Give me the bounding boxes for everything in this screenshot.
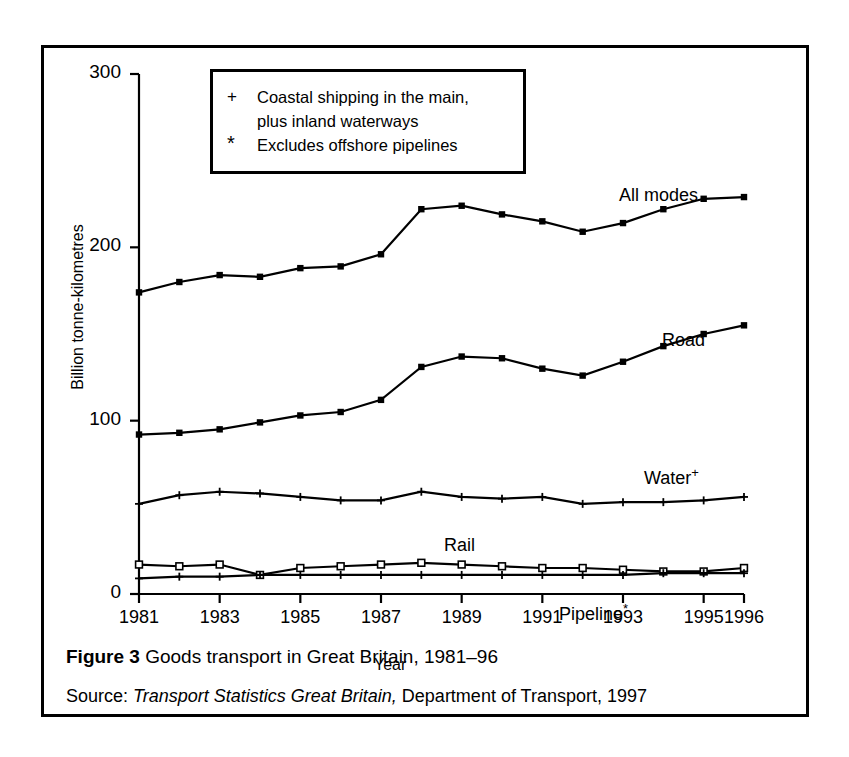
legend-note-box: + Coastal shipping in the main, plus inl… (210, 69, 526, 174)
data-point-marker (700, 196, 706, 202)
data-point-marker (216, 272, 222, 278)
data-point-marker (135, 500, 143, 508)
data-point-marker (378, 251, 384, 257)
series-line (139, 492, 744, 504)
source-prefix: Source: (66, 686, 128, 706)
x-tick-label: 1987 (351, 607, 411, 628)
data-point-marker (136, 289, 142, 295)
legend-note-pipeline-line1: Excludes offshore pipelines (257, 133, 513, 157)
data-point-marker (700, 496, 708, 504)
x-axis-ticks (139, 594, 744, 603)
x-tick-label: 1996 (714, 607, 774, 628)
series-label-superscript: + (691, 465, 699, 480)
data-point-marker (620, 359, 626, 365)
data-point-marker (458, 493, 466, 501)
x-tick-label: 1981 (109, 607, 169, 628)
data-point-marker (741, 322, 747, 328)
data-point-marker (337, 496, 345, 504)
data-point-marker (418, 559, 425, 566)
series-line (139, 573, 744, 578)
data-point-marker (216, 426, 222, 432)
data-point-marker (176, 279, 182, 285)
data-point-marker (175, 573, 183, 581)
plus-marker-icon: + (227, 85, 257, 109)
data-point-marker (337, 263, 343, 269)
data-point-marker (579, 500, 587, 508)
data-point-marker (296, 493, 304, 501)
data-point-marker (256, 489, 264, 497)
data-point-marker (458, 203, 464, 209)
data-point-marker (659, 498, 667, 506)
series-label-all-modes: All modes (619, 185, 698, 206)
data-point-marker (257, 419, 263, 425)
legend-note-water-line2: plus inland waterways (257, 112, 418, 130)
data-point-marker (660, 206, 666, 212)
data-point-marker (538, 493, 546, 501)
asterisk-marker-icon: * (227, 133, 257, 153)
series-label-superscript: * (623, 601, 628, 616)
data-point-marker (175, 491, 183, 499)
x-tick-label: 1989 (432, 607, 492, 628)
data-point-marker (377, 571, 385, 579)
series-line (139, 197, 744, 292)
y-tick-label: 300 (61, 61, 121, 83)
data-point-marker (176, 430, 182, 436)
data-point-marker (135, 574, 143, 582)
data-point-marker (378, 397, 384, 403)
chart-plot-area: 0100200300 19811983198519871989199119931… (44, 48, 806, 628)
series-all-modes (136, 194, 747, 296)
figure-number: Figure 3 (66, 646, 140, 667)
series-label-road: Road (662, 330, 705, 351)
data-point-marker (498, 495, 506, 503)
chart-series-group (135, 194, 748, 583)
data-point-marker (741, 194, 747, 200)
legend-note-water-line1: Coastal shipping in the main, (257, 88, 469, 106)
data-point-marker (740, 493, 748, 501)
data-point-marker (337, 409, 343, 415)
data-point-marker (539, 565, 546, 572)
data-point-marker (136, 431, 142, 437)
data-point-marker (619, 498, 627, 506)
data-point-marker (458, 561, 465, 568)
series-road (136, 322, 747, 438)
x-tick-label: 1983 (190, 607, 250, 628)
y-axis-ticks (130, 74, 139, 594)
data-point-marker (499, 355, 505, 361)
series-line (139, 325, 744, 434)
data-point-marker (337, 571, 345, 579)
data-point-marker (417, 571, 425, 579)
data-point-marker (136, 561, 143, 568)
data-point-marker (216, 573, 224, 581)
data-point-marker (297, 565, 304, 572)
data-point-marker (417, 488, 425, 496)
source-publisher: Department of Transport, 1997 (402, 686, 647, 706)
data-point-marker (297, 412, 303, 418)
data-point-marker (539, 218, 545, 224)
data-point-marker (579, 565, 586, 572)
figure-frame: 0100200300 19811983198519871989199119931… (41, 45, 809, 717)
data-point-marker (378, 561, 385, 568)
figure-caption-block: Figure 3 Goods transport in Great Britai… (66, 646, 796, 707)
legend-note-row-pipeline: * Excludes offshore pipelines (227, 133, 513, 157)
y-tick-label: 0 (61, 581, 121, 603)
data-point-marker (620, 220, 626, 226)
data-point-marker (499, 563, 506, 570)
data-point-marker (257, 274, 263, 280)
data-point-marker (216, 561, 223, 568)
data-point-marker (458, 571, 466, 579)
source-publication: Transport Statistics Great Britain, (133, 686, 397, 706)
figure-source: Source: Transport Statistics Great Brita… (66, 686, 796, 707)
data-point-marker (297, 265, 303, 271)
series-label-pipeline: Pipeline* (559, 601, 628, 625)
data-point-marker (418, 206, 424, 212)
figure-caption: Figure 3 Goods transport in Great Britai… (66, 646, 796, 668)
data-point-marker (176, 563, 183, 570)
data-point-marker (499, 211, 505, 217)
data-point-marker (539, 365, 545, 371)
data-point-marker (377, 496, 385, 504)
legend-note-row-water: + Coastal shipping in the main, plus inl… (227, 85, 513, 133)
x-tick-label: 1985 (270, 607, 330, 628)
series-label-water: Water+ (644, 465, 699, 489)
data-point-marker (579, 229, 585, 235)
series-label-rail: Rail (444, 535, 475, 556)
